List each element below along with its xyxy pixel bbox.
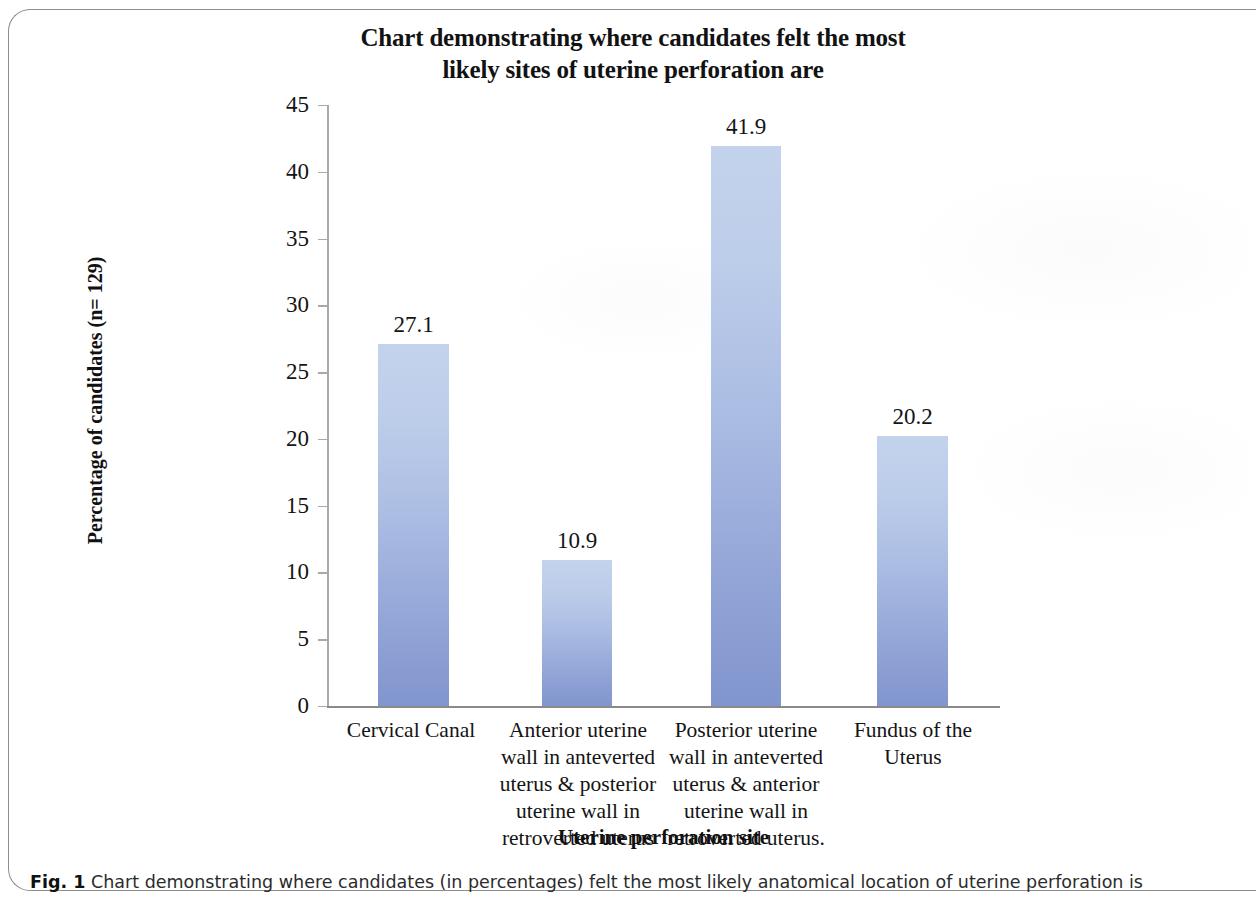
bar-value-label: 20.2 [892,404,932,430]
y-axis-tick: 20 [318,439,327,440]
x-axis-category-label: Cervical Canal [321,717,501,744]
y-axis-line [327,105,329,706]
x-axis-category-label-line: Anterior uterine [487,717,669,744]
figure-caption: Fig. 1 Chart demonstrating where candida… [30,870,1220,894]
chart-title-line-2: likely sites of uterine perforation are [263,54,1003,86]
y-axis-tick: 45 [318,105,327,106]
y-axis-tick: 30 [318,305,327,306]
bar: 27.1 [378,344,449,706]
y-axis-tick: 0 [318,706,327,707]
bar: 10.9 [542,560,612,706]
bar-value-label: 10.9 [557,528,597,554]
y-axis-title: Percentage of candidates (n= 129) [84,221,107,581]
chart-title: Chart demonstrating where candidates fel… [263,22,1003,86]
bar-value-label: 41.9 [726,114,766,140]
bar: 41.9 [711,146,781,706]
x-axis-category-label-line: uterine wall in [654,798,838,825]
x-axis-category-label-line: wall in anteverted [487,744,669,771]
y-axis-tick: 35 [318,239,327,240]
y-axis-tick: 15 [318,506,327,507]
bar-value-label: 27.1 [393,312,433,338]
y-axis-tick-label: 5 [249,624,309,654]
y-axis-tick-label: 40 [249,157,309,187]
figure-caption-label: Fig. 1 [30,872,85,892]
x-axis-category-label-line: Uterus [825,744,1001,771]
bar-chart-figure: Chart demonstrating where candidates fel… [0,0,1246,860]
y-axis-tick-label: 15 [249,491,309,521]
y-axis-tick-label: 45 [249,90,309,120]
x-axis-category-label: Fundus of theUterus [825,717,1001,771]
x-axis-category-label-line: wall in anteverted [654,744,838,771]
x-axis-category-label-line: Cervical Canal [321,717,501,744]
y-axis-tick-label: 35 [249,224,309,254]
x-axis-category-label-line: uterine wall in [487,798,669,825]
plot-area: 051015202530354045 27.110.941.920.2 Cerv… [327,105,1000,706]
x-axis-category-label-line: uterus & posterior [487,771,669,798]
y-axis-tick: 25 [318,372,327,373]
y-axis-tick-label: 0 [249,691,309,721]
y-axis-tick: 5 [318,639,327,640]
y-axis-tick-label: 30 [249,290,309,320]
x-axis-title: Uterine perforation site [327,825,1000,850]
x-axis-category-label-line: Fundus of the [825,717,1001,744]
bar: 20.2 [877,436,948,706]
x-axis-category-label-line: Posterior uterine [654,717,838,744]
y-axis-tick-label: 20 [249,424,309,454]
y-axis-tick: 40 [318,172,327,173]
y-axis-tick-label: 10 [249,557,309,587]
chart-title-line-1: Chart demonstrating where candidates fel… [263,22,1003,54]
figure-caption-text: Chart demonstrating where candidates (in… [91,872,1143,892]
y-axis-tick-label: 25 [249,357,309,387]
y-axis-tick: 10 [318,572,327,573]
x-axis-category-label-line: uterus & anterior [654,771,838,798]
x-axis-line [327,706,1000,708]
